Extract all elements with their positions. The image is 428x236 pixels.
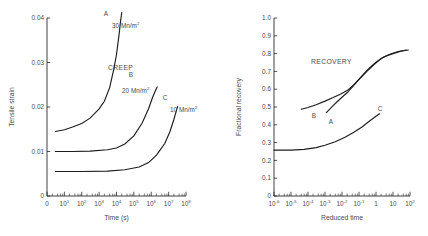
y-tick-label: 0.9 bbox=[262, 32, 271, 39]
x-tick-label: 105 bbox=[129, 199, 139, 207]
data-curve-c bbox=[274, 114, 379, 150]
curve-label-c: C bbox=[163, 94, 168, 101]
x-tick-label: 103 bbox=[94, 199, 104, 207]
axis-lines bbox=[274, 18, 410, 196]
y-tick-label: 0.2 bbox=[262, 157, 271, 164]
figure-root: 00.010.020.030.0401011021031041051061071… bbox=[0, 0, 428, 236]
curve-label-b: B bbox=[312, 112, 316, 119]
y-tick-label: 0.6 bbox=[262, 85, 271, 92]
x-tick-label: 10-4 bbox=[302, 199, 314, 207]
data-curve-a bbox=[55, 13, 121, 132]
creep-chart-panel: 00.010.020.030.0401011021031041051061071… bbox=[0, 0, 214, 236]
x-tick-label: 106 bbox=[146, 199, 156, 207]
curve-label-a: A bbox=[329, 118, 334, 125]
y-tick-label: 0.02 bbox=[32, 103, 45, 110]
x-tick-label: 10-3 bbox=[319, 199, 331, 207]
x-tick-label: 10-6 bbox=[268, 199, 280, 207]
y-tick-label: 0.3 bbox=[262, 139, 271, 146]
x-tick-label: 1 bbox=[374, 200, 378, 207]
chart-title-label: RECOVERY bbox=[311, 58, 352, 65]
curve-annotation-c: 10 Mn/m2 bbox=[170, 105, 198, 113]
x-tick-label: 104 bbox=[112, 199, 122, 207]
x-tick-label: 0 bbox=[45, 200, 49, 207]
axis-lines bbox=[47, 18, 186, 196]
recovery-plot: 00.10.20.30.40.50.60.70.80.91.010-610-51… bbox=[214, 0, 428, 236]
curve-annotation-a: 30 Mn/m2 bbox=[112, 21, 140, 29]
x-tick-label: 10-5 bbox=[285, 199, 297, 207]
y-tick-label: 1.0 bbox=[262, 14, 271, 21]
data-curve-c bbox=[55, 107, 177, 172]
curve-label-b: B bbox=[129, 71, 133, 78]
x-tick-label: 10 bbox=[389, 200, 397, 207]
y-tick-label: 0.03 bbox=[32, 59, 45, 66]
x-tick-label: 102 bbox=[405, 199, 415, 207]
curve-label-a: A bbox=[104, 10, 109, 17]
curve-annotation-b: 20 Mn/m2 bbox=[122, 86, 150, 94]
y-axis-title: Fractional recovery bbox=[235, 78, 243, 136]
curve-label-c: C bbox=[378, 105, 383, 112]
recovery-chart-panel: 00.10.20.30.40.50.60.70.80.91.010-610-51… bbox=[214, 0, 428, 236]
x-tick-label: 108 bbox=[181, 199, 191, 207]
y-tick-label: 0 bbox=[40, 192, 44, 199]
y-axis-title: Tensile strain bbox=[8, 87, 15, 127]
y-tick-label: 0.1 bbox=[262, 174, 271, 181]
x-tick-label: 101 bbox=[60, 199, 70, 207]
x-tick-label: 10-2 bbox=[336, 199, 348, 207]
y-tick-label: 0 bbox=[267, 192, 271, 199]
y-tick-label: 0.7 bbox=[262, 68, 271, 75]
y-tick-label: 0.04 bbox=[32, 14, 45, 21]
chart-title-label: CREEP bbox=[108, 64, 133, 71]
x-tick-label: 107 bbox=[164, 199, 174, 207]
x-axis-title: Reduced time bbox=[321, 214, 363, 221]
creep-plot: 00.010.020.030.0401011021031041051061071… bbox=[0, 0, 214, 236]
y-tick-label: 0.01 bbox=[32, 148, 45, 155]
y-tick-label: 0.4 bbox=[262, 121, 271, 128]
y-tick-label: 0.5 bbox=[262, 103, 271, 110]
x-tick-label: 102 bbox=[77, 199, 87, 207]
x-axis-title: Time (s) bbox=[104, 214, 129, 222]
x-tick-label: 10-1 bbox=[353, 199, 365, 207]
y-tick-label: 0.8 bbox=[262, 50, 271, 57]
